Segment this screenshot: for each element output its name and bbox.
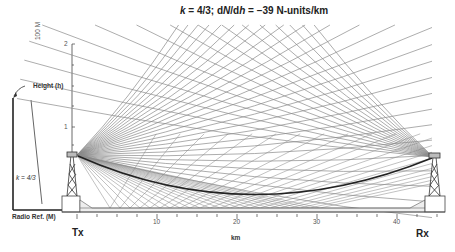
x-tick-30: 30 (313, 218, 320, 225)
x-axis (77, 214, 437, 219)
y-axis-unit: 100 M (34, 22, 41, 40)
y-tick-1: 1 (64, 123, 68, 130)
rx-tower-icon (429, 153, 440, 196)
x-tick-40: 40 (393, 218, 400, 225)
tx-label: Tx (72, 227, 84, 238)
ray-trace-diagram (0, 0, 455, 252)
rays-from-tx (77, 25, 432, 218)
radio-ref-label: Radio Ref. (M) (12, 213, 56, 220)
x-axis-label: km (231, 234, 240, 241)
x-tick-20: 20 (233, 218, 240, 225)
k-value-label: k = 4/3 (16, 174, 36, 181)
rx-label: Rx (416, 228, 429, 239)
rays-from-rx (17, 25, 433, 157)
refractivity-inset (13, 86, 62, 210)
y-axis (72, 44, 75, 155)
height-label: Height (h) (33, 82, 63, 89)
x-tick-10: 10 (153, 218, 160, 225)
tx-tower-icon (67, 152, 77, 196)
direct-ray (78, 156, 432, 195)
y-tick-2: 2 (64, 40, 68, 47)
figure-title: k = 4/3; dN/dh = −39 N-units/km (180, 5, 328, 16)
